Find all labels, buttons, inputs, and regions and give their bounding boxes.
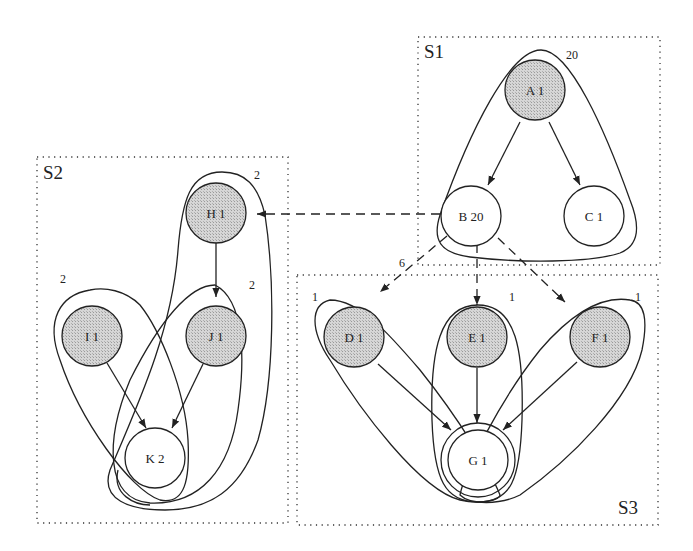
node-j[interactable]: J 1 <box>186 306 246 366</box>
node-g[interactable]: G 1 <box>448 430 508 490</box>
edge-a-c <box>549 122 580 185</box>
node-b[interactable]: B 20 <box>441 186 501 246</box>
svg-text:A 1: A 1 <box>526 83 544 98</box>
count-h-group: 2 <box>254 168 260 182</box>
node-d[interactable]: D 1 <box>324 307 384 367</box>
svg-text:J 1: J 1 <box>209 329 224 344</box>
subsystem-label-s1: S1 <box>424 41 444 62</box>
svg-text:K 2: K 2 <box>145 451 164 466</box>
count-f-group: 1 <box>635 290 641 304</box>
node-e[interactable]: E 1 <box>447 307 507 367</box>
count-a-group: 20 <box>566 48 578 62</box>
edge-j-k <box>172 364 203 428</box>
svg-text:E 1: E 1 <box>468 330 486 345</box>
svg-text:B 20: B 20 <box>459 209 484 224</box>
count-e-group: 1 <box>509 290 515 304</box>
node-f[interactable]: F 1 <box>570 307 630 367</box>
edge-f-g <box>503 362 577 430</box>
svg-text:I 1: I 1 <box>85 329 99 344</box>
edge-a-b <box>488 122 520 185</box>
node-c[interactable]: C 1 <box>564 186 624 246</box>
count-j-group: 2 <box>249 278 255 292</box>
node-i[interactable]: I 1 <box>62 306 122 366</box>
count-i-group: 2 <box>60 272 66 286</box>
node-h[interactable]: H 1 <box>186 183 246 243</box>
node-k[interactable]: K 2 <box>125 428 185 488</box>
subsystem-label-s3: S3 <box>618 497 638 518</box>
svg-text:D 1: D 1 <box>344 330 363 345</box>
count-d-group: 1 <box>312 290 318 304</box>
subsystem-label-s2: S2 <box>43 162 63 183</box>
svg-text:H 1: H 1 <box>206 206 225 221</box>
edge-i-k <box>107 363 146 428</box>
svg-text:C 1: C 1 <box>585 209 603 224</box>
dependency-diagram: S1 S2 S3 <box>0 0 693 551</box>
svg-text:G 1: G 1 <box>468 453 487 468</box>
svg-text:F 1: F 1 <box>592 330 609 345</box>
node-a[interactable]: A 1 <box>505 60 565 120</box>
edge-b-d <box>380 236 447 292</box>
count-b-to-s3: 6 <box>399 256 405 270</box>
